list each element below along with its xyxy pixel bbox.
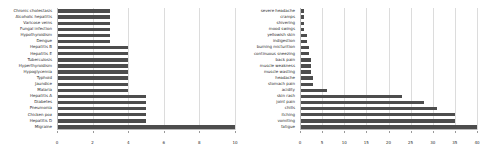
bar xyxy=(300,89,327,92)
bar-row xyxy=(57,89,235,92)
bar-row xyxy=(57,52,235,55)
y-tick-label: Varicose veins xyxy=(23,21,52,25)
bar-row xyxy=(300,70,477,73)
bar-row xyxy=(300,76,477,79)
bar xyxy=(57,28,110,31)
y-tick-label: chills xyxy=(285,106,295,110)
y-tick-label: indigestion xyxy=(273,39,295,43)
x-tick-label: 10 xyxy=(232,140,237,145)
y-axis-labels-right: severe headachecrampsshiveringmood swing… xyxy=(243,8,298,130)
y-tick-label: severe headache xyxy=(261,9,295,13)
y-tick-label: vomiting xyxy=(277,119,295,123)
x-tick-mark xyxy=(433,131,434,133)
y-tick-label: Alcoholic hepatitis xyxy=(15,15,52,19)
bar xyxy=(300,70,311,73)
x-tick-mark xyxy=(389,131,390,133)
gridline xyxy=(235,8,236,130)
bar-row xyxy=(300,9,477,12)
bar xyxy=(300,107,437,110)
bar xyxy=(300,119,455,122)
chart-panel-symptoms: severe headachecrampsshiveringmood swing… xyxy=(243,0,485,147)
y-tick-label: Hepatitis B xyxy=(30,45,52,49)
y-tick-label: headache xyxy=(275,76,295,80)
bar xyxy=(57,101,146,104)
bar xyxy=(57,58,128,61)
x-tick-label: 35 xyxy=(452,140,457,145)
y-tick-label: Fungal infection xyxy=(20,27,52,31)
x-tick-label: 6 xyxy=(163,140,166,145)
y-tick-label: Diabetes xyxy=(34,100,52,104)
x-tick-mark xyxy=(128,131,129,133)
x-axis-ticks-right: 0510152025303540 xyxy=(300,131,477,145)
x-tick-label: 20 xyxy=(386,140,391,145)
y-tick-label: shivering xyxy=(277,21,295,25)
bar xyxy=(300,101,424,104)
x-tick-mark xyxy=(235,131,236,133)
bars-right xyxy=(300,8,477,130)
bar xyxy=(57,113,146,116)
bar xyxy=(57,89,128,92)
x-tick-mark xyxy=(199,131,200,133)
bar xyxy=(57,15,110,18)
bar xyxy=(300,83,313,86)
bar xyxy=(300,46,309,49)
bar xyxy=(57,70,128,73)
bar-row xyxy=(300,58,477,61)
bar-row xyxy=(300,89,477,92)
bar xyxy=(57,95,146,98)
y-tick-label: Migraine xyxy=(35,125,52,129)
bar-row xyxy=(57,107,235,110)
y-tick-label: fatigue xyxy=(281,125,295,129)
y-tick-label: Jaundice xyxy=(35,82,52,86)
bar-row xyxy=(57,83,235,86)
bar-row xyxy=(57,46,235,49)
y-tick-label: Tuberculosis xyxy=(28,58,53,62)
bar xyxy=(300,76,313,79)
bar xyxy=(57,9,110,12)
bar xyxy=(300,95,402,98)
y-tick-label: Chronic cholestasis xyxy=(13,9,52,13)
bar xyxy=(300,52,309,55)
y-tick-label: itching xyxy=(281,113,295,117)
bar-row xyxy=(57,15,235,18)
x-tick-mark xyxy=(455,131,456,133)
y-tick-label: continuous sneezing xyxy=(254,52,295,56)
bar-row xyxy=(57,113,235,116)
bar-row xyxy=(300,34,477,37)
y-tick-label: Hepatitis A xyxy=(30,94,52,98)
y-tick-label: Hepatitis E xyxy=(30,52,52,56)
bar-row xyxy=(300,28,477,31)
bar-row xyxy=(57,9,235,12)
x-tick-label: 8 xyxy=(198,140,201,145)
x-tick-mark xyxy=(300,131,301,133)
x-axis-line-right xyxy=(300,129,477,130)
bar-row xyxy=(57,28,235,31)
bar xyxy=(300,58,311,61)
x-tick-mark xyxy=(477,131,478,133)
bar-row xyxy=(57,76,235,79)
bar xyxy=(300,64,311,67)
x-tick-label: 25 xyxy=(408,140,413,145)
y-tick-label: back pain xyxy=(276,58,295,62)
bar xyxy=(57,119,146,122)
bar xyxy=(57,52,128,55)
y-axis-line-right xyxy=(300,8,301,130)
x-tick-label: 5 xyxy=(321,140,324,145)
bar xyxy=(57,76,128,79)
y-tick-label: yellowish skin xyxy=(267,33,295,37)
plot-area-right xyxy=(300,8,477,130)
bar xyxy=(57,83,128,86)
x-tick-label: 2 xyxy=(91,140,94,145)
bar xyxy=(57,107,146,110)
bar-row xyxy=(300,46,477,49)
x-tick-mark xyxy=(322,131,323,133)
bar xyxy=(300,113,455,116)
x-tick-label: 10 xyxy=(342,140,347,145)
y-tick-label: Dengue xyxy=(36,39,52,43)
bar-row xyxy=(57,64,235,67)
bar-row xyxy=(300,107,477,110)
bar-row xyxy=(300,113,477,116)
bar-row xyxy=(300,15,477,18)
x-tick-label: 30 xyxy=(430,140,435,145)
bar xyxy=(57,34,110,37)
